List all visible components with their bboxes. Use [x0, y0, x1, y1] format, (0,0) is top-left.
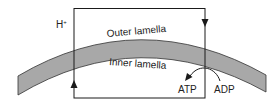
outer-lamella-label: Outer lamella	[106, 23, 167, 39]
adp-label: ADP	[214, 84, 235, 95]
arrow-up-icon	[71, 80, 78, 88]
arrow-down-icon	[202, 19, 209, 27]
membrane-diagram: H+ Outer lamella Inner lamella ATP ADP	[0, 0, 277, 104]
atp-label: ATP	[178, 84, 197, 95]
proton-label: H+	[56, 19, 67, 30]
